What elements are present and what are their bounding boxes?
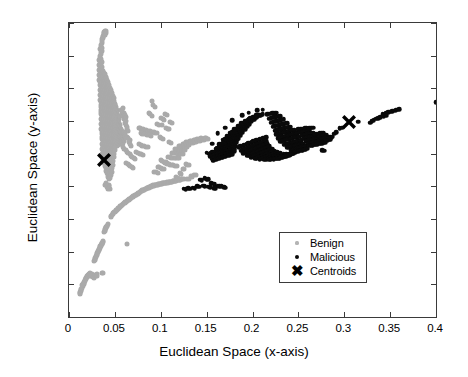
malicious-point [397, 107, 402, 112]
x-tick [390, 312, 391, 317]
centroid-x-icon [340, 113, 358, 131]
y-tick [69, 154, 74, 155]
y-tick-right [431, 284, 436, 285]
y-axis-title: Euclidean Space (y-axis) [25, 38, 40, 298]
benign-point [131, 165, 136, 170]
benign-point [133, 157, 138, 162]
centroid-marker-icon: ✖ [284, 266, 310, 276]
malicious-marker-icon [284, 255, 310, 259]
y-tick-right [431, 219, 436, 220]
benign-point [169, 120, 174, 125]
malicious-point [230, 152, 235, 157]
benign-point [141, 152, 146, 157]
plot-area [68, 22, 437, 318]
malicious-point [224, 185, 229, 190]
x-tick-top [115, 23, 116, 28]
benign-point [104, 224, 109, 229]
y-tick [69, 23, 74, 24]
x-tick-label: 0.3 [335, 322, 351, 334]
benign-point [165, 113, 170, 118]
benign-point [149, 114, 154, 119]
malicious-point [384, 113, 389, 118]
y-tick-right [431, 154, 436, 155]
y-tick [69, 88, 74, 89]
benign-point [186, 163, 191, 168]
malicious-point [188, 186, 193, 191]
benign-point [161, 167, 166, 172]
benign-point [101, 270, 106, 275]
benign-point [155, 170, 160, 175]
malicious-point [192, 186, 197, 191]
x-tick [207, 312, 208, 317]
x-tick-top [344, 23, 345, 28]
malicious-point [210, 142, 215, 147]
malicious-point [200, 178, 205, 183]
benign-point [124, 241, 129, 246]
y-tick-right [431, 252, 436, 253]
benign-point [104, 181, 109, 186]
scatter-plot-figure: Euclidean Space (y-axis) Euclidean Space… [0, 0, 468, 377]
y-tick [69, 284, 74, 285]
malicious-point [223, 125, 228, 130]
benign-point [169, 141, 174, 146]
benign-point [145, 145, 150, 150]
x-tick [115, 312, 116, 317]
benign-point [100, 240, 105, 245]
x-tick-top [390, 23, 391, 28]
benign-point [175, 175, 180, 180]
legend: Benign Malicious ✖ Centroids [279, 232, 367, 283]
x-tick [298, 312, 299, 317]
y-tick [69, 317, 74, 318]
benign-point [108, 175, 113, 180]
y-tick-right [431, 23, 436, 24]
y-tick-right [431, 88, 436, 89]
malicious-point [378, 115, 383, 120]
y-tick-right [431, 56, 436, 57]
x-tick-label: 0.35 [378, 322, 400, 334]
x-tick-label: 0.4 [427, 322, 443, 334]
data-points-layer [69, 23, 436, 317]
malicious-point [255, 108, 260, 113]
benign-point [152, 105, 157, 110]
benign-point [102, 32, 107, 37]
malicious-point [230, 118, 235, 123]
x-tick [161, 312, 162, 317]
benign-point [99, 48, 104, 53]
benign-point [150, 99, 155, 104]
benign-point [167, 127, 172, 132]
legend-label-malicious: Malicious [310, 251, 355, 263]
malicious-point [311, 125, 316, 130]
y-tick [69, 186, 74, 187]
malicious-point [214, 186, 219, 191]
malicious-point [204, 151, 209, 156]
benign-point [193, 172, 198, 177]
y-tick [69, 252, 74, 253]
benign-point [121, 105, 126, 110]
x-tick-label: 0.2 [244, 322, 260, 334]
legend-item-benign: Benign [284, 236, 362, 250]
x-axis-title: Euclidean Space (x-axis) [0, 344, 468, 359]
benign-point [148, 133, 153, 138]
y-tick-right [431, 317, 436, 318]
malicious-point [247, 111, 252, 116]
x-tick-label: 0 [65, 322, 71, 334]
malicious-point [264, 140, 269, 145]
y-tick-right [431, 186, 436, 187]
centroid-x-icon [95, 151, 113, 169]
y-tick [69, 219, 74, 220]
malicious-point [215, 131, 220, 136]
malicious-point [240, 113, 245, 118]
x-tick [344, 312, 345, 317]
x-tick-label: 0.25 [286, 322, 308, 334]
x-tick [253, 312, 254, 317]
x-tick-label: 0.15 [195, 322, 217, 334]
malicious-point [260, 107, 265, 112]
malicious-point [434, 100, 437, 105]
benign-point [162, 118, 167, 123]
benign-point [174, 163, 179, 168]
benign-point [160, 136, 165, 141]
x-tick [436, 312, 437, 317]
legend-label-benign: Benign [310, 237, 344, 249]
malicious-point [322, 148, 327, 153]
x-tick-top [253, 23, 254, 28]
